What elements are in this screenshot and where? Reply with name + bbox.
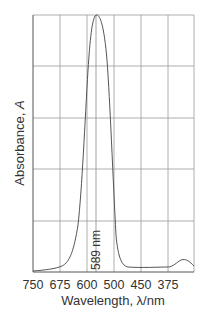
peak-annotation: 589 nm bbox=[89, 230, 103, 270]
x-tick-labels: 750 675 600 500 450 375 bbox=[23, 278, 179, 292]
spectrum-curve bbox=[33, 15, 194, 271]
svg-text:500: 500 bbox=[104, 278, 125, 292]
svg-text:450: 450 bbox=[131, 278, 152, 292]
svg-text:750: 750 bbox=[23, 278, 44, 292]
svg-text:675: 675 bbox=[50, 278, 71, 292]
grid bbox=[33, 15, 194, 272]
x-axis-label: Wavelength, λ/nm bbox=[61, 293, 165, 308]
svg-text:375: 375 bbox=[158, 278, 179, 292]
absorbance-chart: 589 nm 750 675 600 500 450 375 Wavelengt… bbox=[0, 0, 202, 313]
y-axis-label: Absorbance, A bbox=[12, 100, 27, 185]
axes bbox=[33, 15, 194, 272]
svg-text:600: 600 bbox=[77, 278, 98, 292]
